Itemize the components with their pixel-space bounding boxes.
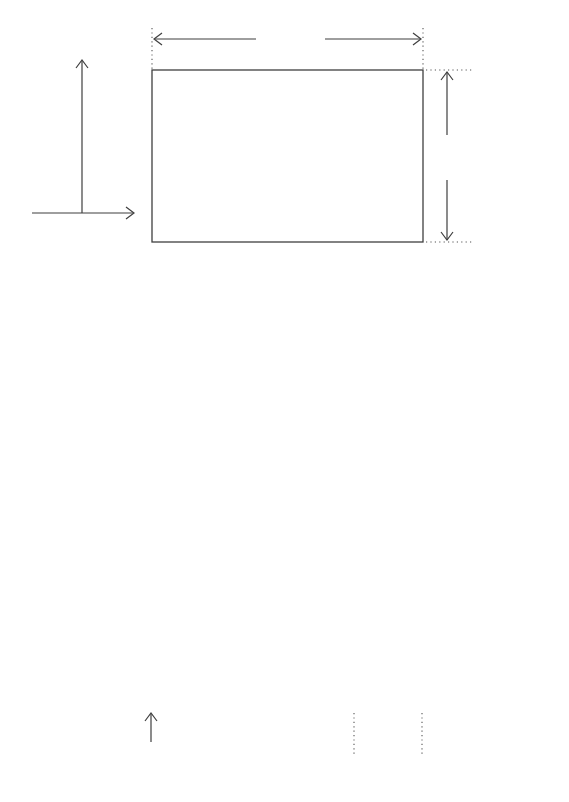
figure-caption xyxy=(0,795,569,802)
block-bandwidth-dimension xyxy=(426,70,472,242)
axes-legend xyxy=(32,60,134,219)
segment-block xyxy=(152,70,423,242)
duration-dimension xyxy=(152,28,423,70)
slot-duration-marker xyxy=(354,713,422,756)
segment-block-outline xyxy=(152,70,423,242)
start-time-marker xyxy=(0,0,157,742)
broadcast-scheme-diagram xyxy=(0,0,569,802)
